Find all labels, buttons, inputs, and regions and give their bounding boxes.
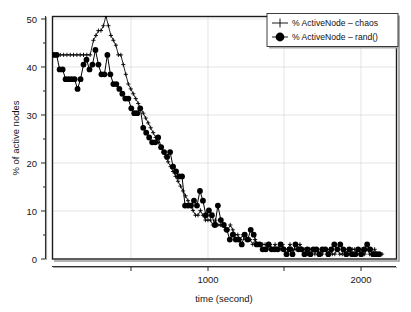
circle-marker-icon <box>93 47 99 53</box>
circle-marker-icon <box>105 52 111 58</box>
circle-marker-icon <box>206 208 212 214</box>
circle-marker-icon <box>143 130 149 136</box>
y-tick-label-40: 40 <box>26 62 37 73</box>
circle-marker-icon <box>155 135 161 141</box>
x-tick-label-1000: 1000 <box>197 274 218 285</box>
circle-marker-icon <box>322 246 328 252</box>
circle-marker-icon <box>209 212 215 218</box>
circle-marker-icon <box>96 62 102 68</box>
circle-marker-icon <box>194 203 200 209</box>
circle-marker-icon <box>84 57 90 63</box>
circle-marker-icon <box>146 135 152 141</box>
x-axis-title: time (second) <box>195 293 253 304</box>
circle-marker-icon <box>230 232 236 238</box>
y-tick-label-0: 0 <box>32 254 37 265</box>
circle-marker-icon <box>331 242 337 248</box>
legend-label-chaos: % ActiveNode – chaos <box>292 18 378 28</box>
circle-marker-icon <box>137 105 143 111</box>
y-tick-label-10: 10 <box>26 206 37 217</box>
circle-marker-icon <box>316 251 322 257</box>
circle-marker-icon <box>164 154 170 160</box>
circle-marker-icon <box>87 67 93 73</box>
circle-marker-icon <box>302 251 308 257</box>
y-tick-labels: 50 40 30 20 10 0 <box>26 14 37 265</box>
circle-marker-icon <box>179 173 185 179</box>
circle-marker-icon <box>81 62 87 68</box>
circle-marker-icon <box>245 237 251 243</box>
circle-marker-icon <box>152 139 158 145</box>
circle-marker-icon <box>287 246 293 252</box>
circle-marker-icon <box>215 203 221 209</box>
circle-marker-icon <box>340 246 346 252</box>
y-tick-label-20: 20 <box>26 158 37 169</box>
circle-marker-icon <box>293 242 299 248</box>
circle-marker-icon <box>305 246 311 252</box>
circle-marker-icon <box>299 246 305 252</box>
circle-marker-icon <box>134 110 140 116</box>
circle-marker-icon <box>346 246 352 252</box>
circle-marker-icon <box>224 227 230 233</box>
circle-marker-icon <box>239 242 245 248</box>
circle-marker-icon <box>107 71 113 77</box>
circle-marker-icon <box>343 251 349 257</box>
circle-marker-icon <box>212 222 218 228</box>
circle-marker-icon <box>167 149 173 155</box>
x-tick-label-2000: 2000 <box>350 274 371 285</box>
circle-marker-icon <box>361 246 367 252</box>
circle-marker-icon <box>170 164 176 170</box>
circle-marker-icon <box>284 251 290 257</box>
circle-marker-icon <box>221 222 227 228</box>
circle-marker-icon <box>248 227 254 233</box>
circle-marker-icon <box>263 246 269 252</box>
circle-marker-icon <box>266 242 272 248</box>
chart-canvas: 50 40 30 20 10 0 1000 2000 % of active n… <box>0 0 411 312</box>
circle-marker-icon <box>379 0 385 3</box>
circle-marker-icon <box>313 246 319 252</box>
circle-marker-icon <box>355 246 361 252</box>
circle-marker-icon <box>334 246 340 252</box>
circle-marker-icon <box>188 203 194 209</box>
circle-marker-icon <box>102 71 108 77</box>
circle-marker-icon <box>364 242 370 248</box>
circle-marker-icon <box>140 125 146 131</box>
circle-marker-icon <box>90 62 96 68</box>
filled-circle-icon <box>276 33 285 42</box>
x-axis <box>52 267 397 272</box>
x-tick-labels: 1000 2000 <box>197 274 371 285</box>
circle-marker-icon <box>119 91 125 97</box>
circle-marker-icon <box>218 217 224 223</box>
circle-marker-icon <box>352 251 358 257</box>
circle-marker-icon <box>75 86 81 92</box>
circle-marker-icon <box>242 232 248 238</box>
circle-marker-icon <box>257 242 263 248</box>
circle-marker-icon <box>125 96 131 102</box>
circle-marker-icon <box>200 198 206 204</box>
circle-marker-icon <box>236 237 242 243</box>
circle-marker-icon <box>281 246 287 252</box>
circle-marker-icon <box>376 251 382 257</box>
circle-marker-icon <box>113 81 119 87</box>
circle-marker-icon <box>78 76 84 82</box>
circle-marker-icon <box>358 251 364 257</box>
circle-marker-icon <box>60 67 66 73</box>
circle-marker-icon <box>116 86 122 92</box>
circle-marker-icon <box>367 246 373 252</box>
circle-marker-icon <box>325 251 331 257</box>
circle-marker-icon <box>54 52 60 58</box>
circle-marker-icon <box>161 149 167 155</box>
y-tick-label-30: 30 <box>26 110 37 121</box>
circle-marker-icon <box>290 251 296 257</box>
circle-marker-icon <box>251 232 257 238</box>
chart-figure: 50 40 30 20 10 0 1000 2000 % of active n… <box>0 0 411 312</box>
circle-marker-icon <box>191 198 197 204</box>
circle-marker-icon <box>197 188 203 194</box>
circle-marker-icon <box>328 246 334 252</box>
circle-marker-icon <box>337 242 343 248</box>
circle-marker-icon <box>173 169 179 175</box>
circle-marker-icon <box>308 251 314 257</box>
y-axis-title: % of active nodes <box>10 100 21 175</box>
chart-legend: % ActiveNode – chaos % ActiveNode – rand… <box>267 14 400 49</box>
circle-marker-icon <box>227 237 233 243</box>
circle-marker-icon <box>275 246 281 252</box>
legend-label-rand: % ActiveNode – rand() <box>292 32 378 42</box>
